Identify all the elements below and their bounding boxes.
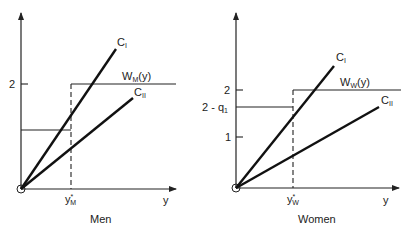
cost-curve-CI xyxy=(21,49,116,189)
panel-men: 2 CI CII WM(y) y*M y Men xyxy=(9,13,176,225)
threshold-label-yM: y*M xyxy=(65,193,76,206)
tick-label-2: 2 xyxy=(9,78,15,90)
tick-label-1: 1 xyxy=(225,131,231,143)
curve-label-CII: CII xyxy=(134,86,146,99)
curve-label-CII: CII xyxy=(381,94,393,107)
tick-label-2: 2 xyxy=(224,84,230,96)
cost-curve-CII xyxy=(21,98,133,189)
panel-women: 2 2 - q1 1 CI CII WW(y) y*W y Women xyxy=(202,13,401,225)
x-axis-label: y xyxy=(163,194,169,206)
caption-women: Women xyxy=(298,213,336,225)
curve-label-CI: CI xyxy=(336,51,346,64)
wage-label-WW: WW(y) xyxy=(340,76,370,89)
tick-label-2-minus-q1: 2 - q1 xyxy=(202,101,228,114)
caption-men: Men xyxy=(90,213,111,225)
curve-label-CI: CI xyxy=(117,36,127,49)
diagram: 2 CI CII WM(y) y*M y Men 2 2 - q1 1 xyxy=(0,0,411,233)
wage-label-WM: WM(y) xyxy=(122,70,151,83)
cost-curve-CII xyxy=(236,107,379,188)
threshold-label-yW: y*W xyxy=(287,193,299,206)
x-axis-label: y xyxy=(383,194,389,206)
cost-curve-CI xyxy=(236,66,334,188)
